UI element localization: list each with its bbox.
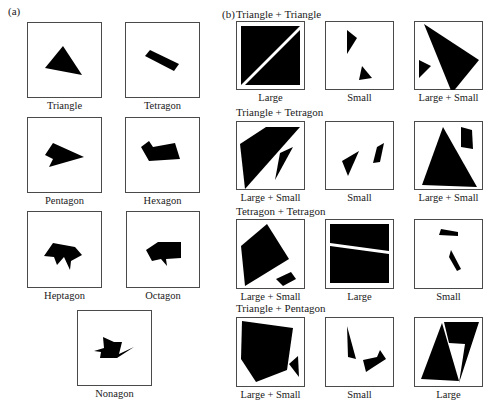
group-title: Tetragon + Tetragon <box>236 205 325 217</box>
polygon-shape <box>439 229 458 236</box>
stimulus-caption: Large + Small <box>236 389 305 400</box>
stimulus-heptagon: Heptagon <box>27 211 102 302</box>
stimulus-caption: Large + Small <box>414 92 483 103</box>
polygon-shape <box>289 356 299 377</box>
polygon-shapes <box>414 317 483 387</box>
stimulus-pair-0-2: Large + Small <box>414 21 483 104</box>
stimulus-pair-0-0: Large <box>236 21 305 104</box>
polygon-shapes <box>414 219 483 289</box>
polygon-shapes <box>325 317 394 387</box>
polygon-shape <box>373 143 384 163</box>
polygon-shapes <box>325 21 394 90</box>
polygon-shapes <box>414 21 483 90</box>
stimulus-pair-3-1: Small <box>325 317 394 401</box>
polygon-shape <box>359 66 372 80</box>
stimulus-caption: Nonagon <box>77 388 152 399</box>
polygon-shape <box>44 243 82 270</box>
polygon-shape <box>347 30 357 54</box>
polygon-shape <box>461 127 473 149</box>
polygon-shape <box>419 60 431 78</box>
stimulus-caption: Large <box>325 291 394 302</box>
stimulus-hexagon: Hexagon <box>125 117 200 207</box>
panel-a-label: (a) <box>8 5 20 17</box>
stimulus-caption: Large + Small <box>236 291 305 302</box>
polygon-shape <box>342 151 359 176</box>
polygon-shapes <box>27 22 102 98</box>
polygon-shapes <box>236 21 305 90</box>
polygon-shape <box>241 321 293 382</box>
stimulus-pair-1-2: Large + Small <box>414 121 483 204</box>
polygon-shape <box>45 143 84 167</box>
polygon-shape <box>145 50 179 71</box>
polygon-shapes <box>325 121 394 190</box>
group-title: Triangle + Pentagon <box>236 302 326 314</box>
stimulus-pair-0-1: Small <box>325 21 394 104</box>
group-title: Triangle + Triangle <box>236 8 321 20</box>
polygon-shapes <box>236 219 305 289</box>
polygon-shape <box>141 141 180 161</box>
stimulus-caption: Large <box>236 92 305 103</box>
polygon-shape <box>240 127 300 189</box>
stimulus-caption: Heptagon <box>27 290 102 301</box>
polygon-shape <box>330 224 389 251</box>
polygon-shapes <box>77 310 152 386</box>
polygon-shapes <box>325 219 394 289</box>
stimulus-caption: Triangle <box>27 100 102 111</box>
polygon-shape <box>45 46 82 75</box>
polygon-shapes <box>414 121 483 190</box>
polygon-shape <box>347 326 356 359</box>
polygon-shape <box>146 242 181 266</box>
stimulus-caption: Small <box>325 389 394 400</box>
stimulus-caption: Hexagon <box>125 195 200 206</box>
polygon-shapes <box>126 211 200 288</box>
stimulus-caption: Small <box>325 92 394 103</box>
stimulus-octagon: Octagon <box>126 211 200 302</box>
stimulus-caption: Large + Small <box>414 192 483 203</box>
stimulus-pentagon: Pentagon <box>27 117 102 207</box>
stimulus-pair-1-1: Small <box>325 121 394 204</box>
stimulus-nonagon: Nonagon <box>77 310 152 400</box>
stimulus-pair-2-0: Large + Small <box>236 219 305 303</box>
stimulus-pair-1-0: Large + Small <box>236 121 305 204</box>
polygon-shape <box>330 246 389 283</box>
group-title: Triangle + Tetragon <box>236 106 323 118</box>
polygon-shapes <box>125 22 200 98</box>
polygon-shapes <box>27 117 102 193</box>
stimulus-pair-2-2: Small <box>414 219 483 303</box>
stimulus-caption: Pentagon <box>27 195 102 206</box>
polygon-shape <box>363 350 386 372</box>
stimulus-caption: Small <box>414 291 483 302</box>
stimulus-caption: Tetragon <box>125 100 200 111</box>
polygon-shape <box>449 250 461 271</box>
stimulus-pair-3-0: Large + Small <box>236 317 305 401</box>
stimulus-pair-2-1: Large <box>325 219 394 303</box>
polygon-shape <box>424 24 479 90</box>
polygon-shape <box>94 337 134 358</box>
polygon-shapes <box>236 317 305 387</box>
polygon-shapes <box>125 117 200 193</box>
polygon-shapes <box>27 211 102 288</box>
stimulus-caption: Large <box>414 389 483 400</box>
stimulus-pair-3-2: Large <box>414 317 483 401</box>
stimulus-caption: Large + Small <box>236 192 305 203</box>
polygon-shape <box>276 272 296 286</box>
stimulus-caption: Octagon <box>126 290 200 301</box>
stimulus-caption: Small <box>325 192 394 203</box>
panel-b-label: (b) <box>222 8 235 20</box>
stimulus-triangle: Triangle <box>27 22 102 112</box>
stimulus-tetragon: Tetragon <box>125 22 200 112</box>
polygon-shapes <box>236 121 305 190</box>
